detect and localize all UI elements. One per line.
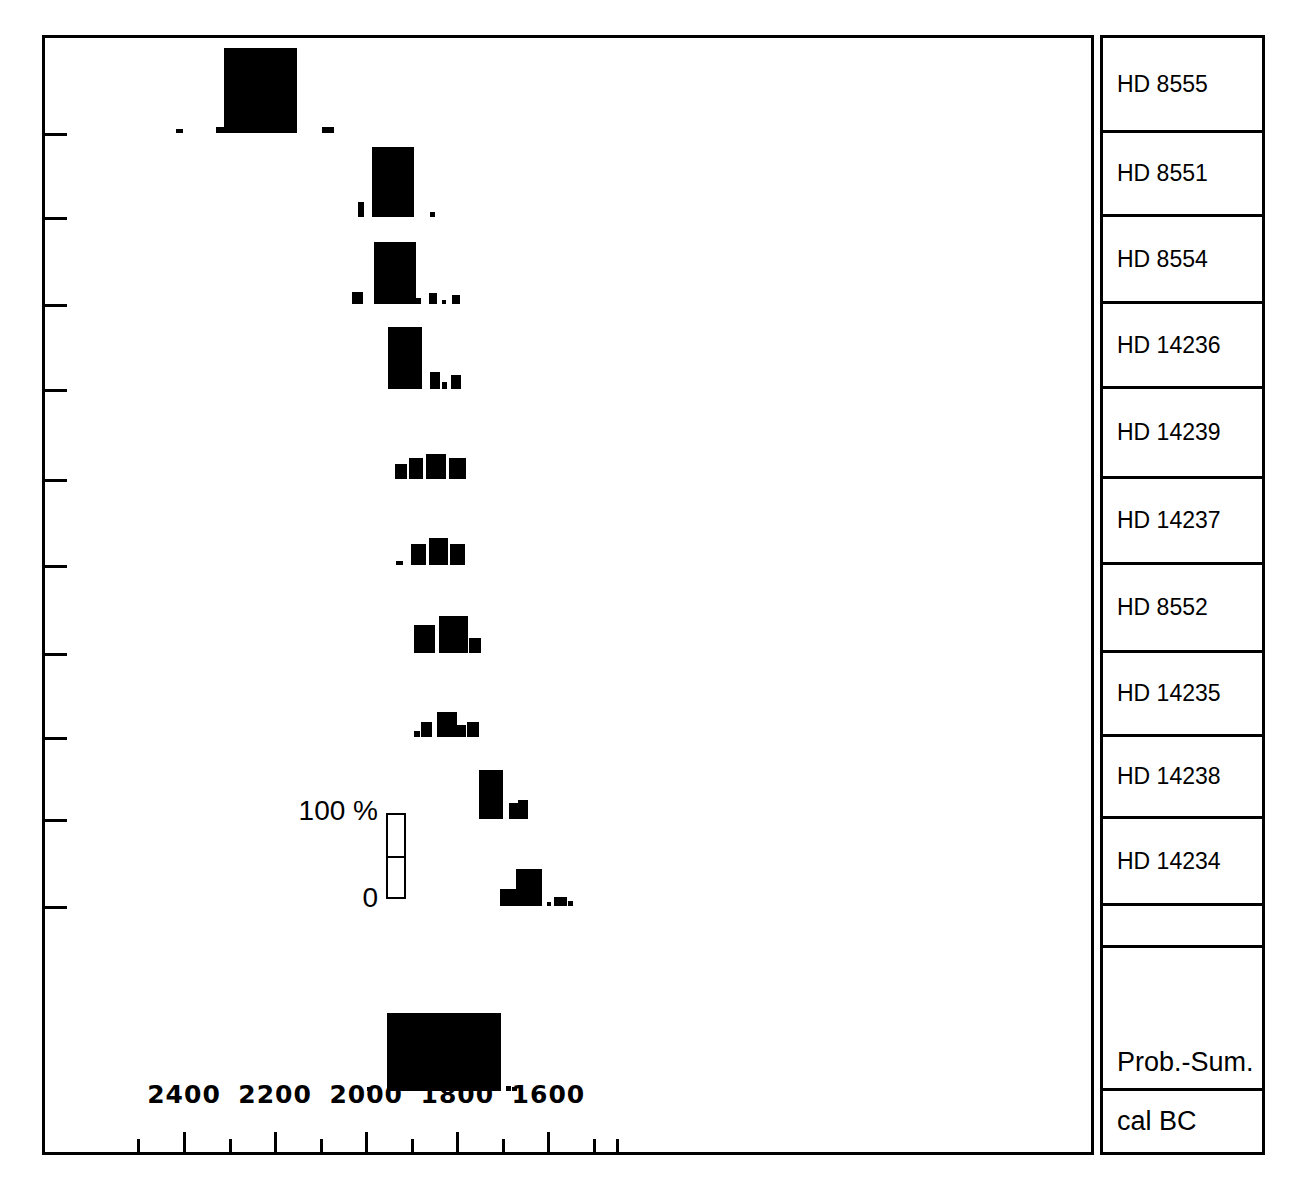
probability-bar (506, 1086, 512, 1091)
sample-label-cell-hd-8554: HD 8554 (1103, 217, 1262, 304)
probability-bar (479, 770, 503, 819)
sample-label-cell-hd-8552: HD 8552 (1103, 565, 1262, 653)
y-axis-tick (45, 906, 67, 909)
scale-midline-tick (386, 856, 406, 858)
probability-bar (396, 561, 403, 565)
probability-bar (430, 372, 439, 389)
probability-bar (467, 722, 478, 737)
x-axis-minor-tick (616, 1139, 619, 1152)
probability-bar (414, 731, 420, 737)
sample-label-cell-hd-14239: HD 14239 (1103, 389, 1262, 479)
x-axis-minor-tick (320, 1139, 323, 1152)
x-axis-minor-tick (137, 1139, 140, 1152)
y-axis-tick (45, 565, 67, 568)
x-axis-tick-label: 1600 (512, 1080, 586, 1109)
probability-bar (500, 889, 515, 906)
sample-label-column: HD 8555HD 8551HD 8554HD 14236HD 14239HD … (1100, 35, 1265, 1155)
y-axis-tick (45, 389, 67, 392)
sample-label-text: HD 14236 (1117, 332, 1221, 359)
probability-bar (442, 300, 446, 304)
sample-label-text: HD 14238 (1117, 763, 1221, 790)
probability-bar (416, 298, 421, 304)
probability-bar (442, 382, 447, 389)
probability-bar (439, 616, 468, 653)
y-axis-tick (45, 217, 67, 220)
probability-bar (516, 869, 542, 906)
probability-bar (426, 454, 446, 479)
sample-label-text: HD 14239 (1117, 419, 1221, 446)
sample-label-text: Prob.-Sum. (1117, 1047, 1254, 1078)
probability-bar (429, 293, 437, 304)
x-axis-tick-label: 2200 (238, 1080, 312, 1109)
probability-bar (469, 638, 482, 653)
sample-label-cell-hd-14236: HD 14236 (1103, 304, 1262, 389)
sample-label-text: HD 14235 (1117, 680, 1221, 707)
sample-label-text: HD 14234 (1117, 848, 1221, 875)
radiocarbon-calibration-chart: 24002200200018001600 100 % 0 HD 8555HD 8… (0, 0, 1309, 1185)
probability-bar (421, 722, 432, 737)
x-axis-major-tick (274, 1132, 277, 1152)
probability-bar (176, 129, 183, 133)
y-axis-tick (45, 479, 67, 482)
probability-bar (437, 712, 457, 737)
probability-bar (430, 212, 435, 217)
probability-bar (568, 901, 573, 906)
probability-bar (374, 242, 416, 304)
probability-bar (358, 202, 363, 217)
x-axis-tick-label: 2000 (329, 1080, 403, 1109)
y-axis-tick (45, 133, 67, 136)
sample-label-cell-cal-bc: cal BC (1103, 1091, 1262, 1152)
sample-label-text: HD 8552 (1117, 594, 1208, 621)
y-axis-tick (45, 653, 67, 656)
sample-label-cell-hd-14237: HD 14237 (1103, 479, 1262, 565)
sample-label-text: HD 14237 (1117, 507, 1221, 534)
sample-label-text: HD 8551 (1117, 160, 1208, 187)
x-axis-major-tick (547, 1132, 550, 1152)
y-axis-tick (45, 304, 67, 307)
sample-label-cell-hd-14235: HD 14235 (1103, 653, 1262, 737)
probability-bar (449, 458, 466, 479)
probability-bar (372, 147, 414, 217)
x-axis-minor-tick (502, 1139, 505, 1152)
probability-bar (509, 803, 518, 819)
y-axis-tick (45, 737, 67, 740)
probability-bar (322, 127, 334, 133)
probability-bar (457, 725, 466, 737)
probability-bar (224, 48, 296, 133)
probability-bar (414, 625, 435, 653)
probability-bar (429, 538, 448, 565)
y-axis-tick (45, 819, 67, 822)
probability-bar (409, 458, 423, 479)
sample-label-cell-hd-8551: HD 8551 (1103, 133, 1262, 217)
x-axis-minor-tick (411, 1139, 414, 1152)
x-axis-tick-label: 1800 (421, 1080, 495, 1109)
sample-label-text: HD 8555 (1117, 71, 1208, 98)
probability-bar (395, 464, 406, 479)
sample-label-text: HD 8554 (1117, 246, 1208, 273)
probability-bar (554, 897, 567, 906)
probability-scale-legend: 100 % 0 (300, 795, 420, 910)
x-axis-major-tick (456, 1132, 459, 1152)
sample-label-cell-hd-8555: HD 8555 (1103, 38, 1262, 133)
probability-bar (352, 292, 362, 304)
plot-area: 24002200200018001600 (45, 38, 1091, 1152)
x-axis-minor-tick (229, 1139, 232, 1152)
probability-bar (388, 327, 422, 389)
probability-bar (451, 375, 461, 389)
x-axis-major-tick (365, 1132, 368, 1152)
sample-label-text: cal BC (1117, 1106, 1197, 1137)
sample-label-cell-prob-sum: Prob.-Sum. (1103, 948, 1262, 1091)
sample-label-cell-hd-14238: HD 14238 (1103, 737, 1262, 819)
scale-top-label: 100 % (299, 795, 378, 827)
scale-bottom-label: 0 (362, 882, 378, 914)
probability-bar (452, 295, 460, 304)
x-axis-minor-tick (593, 1139, 596, 1152)
plot-frame: 24002200200018001600 (42, 35, 1094, 1155)
probability-bar (547, 902, 551, 906)
sample-label-cell-empty (1103, 906, 1262, 948)
x-axis-tick-label: 2400 (147, 1080, 221, 1109)
probability-bar (411, 544, 426, 565)
sample-label-cell-hd-14234: HD 14234 (1103, 819, 1262, 906)
probability-bar (216, 127, 224, 133)
probability-bar (518, 800, 528, 819)
